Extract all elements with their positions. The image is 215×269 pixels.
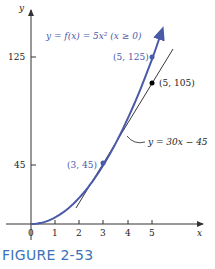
label-point-5-105: (5, 105) (159, 78, 195, 88)
x-tick-label-5: 5 (149, 228, 155, 238)
y-axis-label: y (18, 3, 25, 13)
x-tick-label-2: 2 (76, 228, 82, 238)
y-tick-label-45: 45 (14, 160, 26, 170)
tangent-leader-line (127, 136, 145, 143)
x-ticks (55, 220, 152, 224)
point-3-45 (101, 161, 106, 166)
x-tick-labels: 0 1 2 3 4 5 (28, 228, 155, 238)
point-5-105 (150, 81, 155, 86)
point-5-125 (150, 55, 155, 60)
figure-plot: 0 1 2 3 4 5 x y 125 45 (3, 45) (5, 125) … (0, 0, 215, 245)
label-point-3-45: (3, 45) (67, 160, 97, 170)
function-label: y = f(x) = 5x² (x ≥ 0) (45, 31, 142, 41)
tangent-label: y = 30x − 45 (147, 137, 208, 147)
x-tick-label-3: 3 (100, 228, 106, 238)
x-tick-label-1: 1 (52, 228, 58, 238)
x-axis-label: x (197, 228, 202, 238)
label-point-5-125: (5, 125) (113, 52, 149, 62)
x-tick-label-0: 0 (28, 228, 34, 238)
figure-caption: FIGURE 2-53 (2, 247, 93, 263)
x-tick-label-4: 4 (125, 228, 131, 238)
y-tick-label-125: 125 (8, 52, 25, 62)
